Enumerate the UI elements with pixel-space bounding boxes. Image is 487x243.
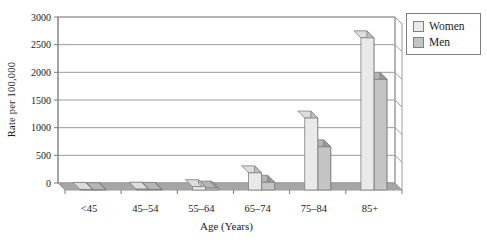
bar-front-face: [318, 147, 331, 190]
x-category-label: 45–54: [132, 203, 159, 214]
right-wall-gridline: [395, 45, 402, 52]
bar-front-face: [249, 173, 262, 190]
legend-item-women: Women: [413, 19, 480, 34]
y-axis-title: Rate per 100,000: [6, 30, 17, 170]
bar-front-face: [205, 188, 218, 190]
legend: Women Men: [406, 13, 481, 55]
bar-front-face: [149, 189, 162, 190]
bar-front-face: [192, 187, 205, 190]
women-swatch-icon: [413, 21, 424, 32]
right-wall-gridline: [395, 72, 402, 79]
x-category-label: 85+: [362, 203, 379, 214]
legend-item-men: Men: [413, 35, 480, 50]
y-tick-label: 2000: [31, 67, 51, 78]
bar-front-face: [136, 189, 149, 190]
bar-front-face: [262, 182, 275, 190]
bar-front-face: [361, 38, 374, 190]
y-tick-label: 0: [46, 178, 51, 189]
plot-floor: [58, 183, 402, 190]
right-wall-gridline: [395, 100, 402, 107]
x-category-label: 55–64: [188, 203, 215, 214]
bar-front-face: [305, 118, 318, 190]
chart: 050010001500200025003000<4545–5455–6465–…: [0, 0, 487, 243]
bar-front-face: [80, 189, 93, 190]
y-tick-label: 1500: [31, 95, 51, 106]
x-category-label: 75–84: [301, 203, 328, 214]
men-swatch-icon: [413, 37, 424, 48]
legend-label-women: Women: [429, 19, 464, 34]
right-wall-gridline: [395, 128, 402, 135]
y-tick-label: 1000: [31, 122, 51, 133]
x-axis-title: Age (Years): [58, 220, 395, 232]
y-tick-label: 2500: [31, 39, 51, 50]
x-category-label: <45: [81, 203, 97, 214]
legend-label-men: Men: [429, 35, 450, 50]
right-wall-gridline: [395, 155, 402, 162]
bar-front-face: [374, 79, 387, 190]
y-tick-label: 3000: [31, 12, 51, 23]
x-category-label: 65–74: [244, 203, 271, 214]
y-tick-label: 500: [36, 150, 51, 161]
